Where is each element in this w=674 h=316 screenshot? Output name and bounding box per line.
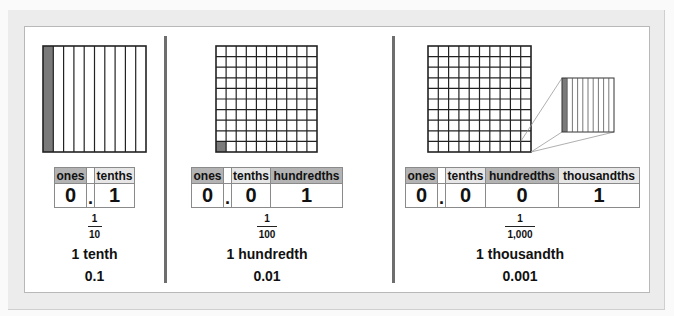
decimal-point: .	[87, 184, 95, 208]
fraction-bar	[257, 226, 277, 227]
fraction-denominator: 10	[54, 229, 135, 240]
header-tenths: tenths	[232, 168, 271, 184]
place-value-table-thousandths: ones tenths hundredths thousandths 0 . 0…	[405, 167, 640, 208]
fraction-numerator: 1	[191, 213, 343, 224]
fraction-denominator: 100	[191, 229, 343, 240]
fraction-numerator: 1	[455, 213, 585, 224]
caption-tenth: 1 10 1 tenth 0.1	[54, 213, 135, 284]
value-tenths: 0	[232, 184, 271, 208]
word-form: 1 tenth	[54, 246, 135, 262]
caption-thousandth: 1 1,000 1 thousandth 0.001	[455, 213, 585, 284]
panel-divider-1	[164, 36, 167, 283]
tenths-model	[42, 45, 147, 153]
header-hundredths: hundredths	[271, 168, 343, 184]
value-tenths: 0	[446, 184, 486, 208]
thousandths-model	[427, 45, 617, 153]
hundredths-model	[215, 45, 318, 153]
value-ones: 0	[406, 184, 438, 208]
caption-hundredth: 1 100 1 hundredth 0.01	[191, 213, 343, 284]
panel-divider-2	[392, 36, 395, 283]
decimal-form: 0.01	[191, 268, 343, 284]
fraction-numerator: 1	[54, 213, 135, 224]
word-form: 1 thousandth	[455, 246, 585, 262]
place-value-table-hundredths: ones tenths hundredths 0 . 0 1	[191, 167, 343, 208]
header-decimal	[438, 168, 446, 184]
value-ones: 0	[192, 184, 224, 208]
header-ones: ones	[406, 168, 438, 184]
decimal-point: .	[438, 184, 446, 208]
value-tenths: 1	[95, 184, 135, 208]
header-decimal	[224, 168, 232, 184]
header-hundredths: hundredths	[486, 168, 559, 184]
value-hundredths: 0	[486, 184, 559, 208]
fraction-bar	[88, 226, 102, 227]
header-ones: ones	[192, 168, 224, 184]
fraction-denominator: 1,000	[455, 229, 585, 240]
place-value-table-tenths: ones tenths 0 . 1	[54, 167, 135, 208]
word-form: 1 hundredth	[191, 246, 343, 262]
header-ones: ones	[55, 168, 87, 184]
decimal-form: 0.1	[54, 268, 135, 284]
value-hundredths: 1	[271, 184, 343, 208]
header-thousandths: thousandths	[559, 168, 640, 184]
decimal-form: 0.001	[455, 268, 585, 284]
header-tenths: tenths	[446, 168, 486, 184]
header-tenths: tenths	[95, 168, 135, 184]
value-ones: 0	[55, 184, 87, 208]
fraction-bar	[505, 226, 535, 227]
decimal-point: .	[224, 184, 232, 208]
header-decimal	[87, 168, 95, 184]
value-thousandths: 1	[559, 184, 640, 208]
